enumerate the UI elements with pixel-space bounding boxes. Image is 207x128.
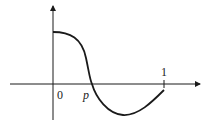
- root-label-p: p: [82, 88, 89, 102]
- x-end-label: 1: [161, 65, 167, 79]
- function-graph: 0 p 1: [0, 0, 207, 128]
- function-curve: [53, 32, 164, 115]
- origin-label: 0: [57, 88, 63, 102]
